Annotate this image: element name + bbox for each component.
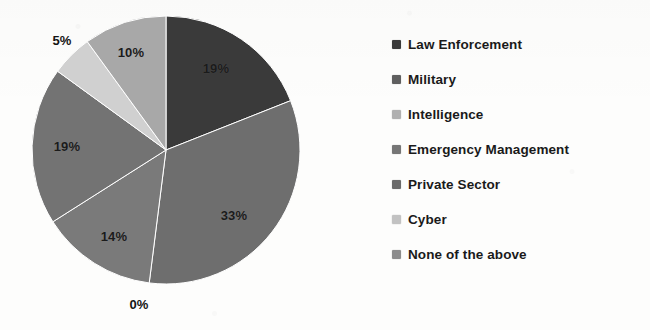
legend-item-label: Law Enforcement — [408, 38, 522, 52]
legend-item[interactable]: Emergency Management — [392, 132, 642, 167]
legend-swatch-icon — [392, 145, 401, 154]
legend-item-label: Cyber — [408, 213, 447, 227]
legend-swatch-icon — [392, 250, 401, 259]
slice-value-label: 5% — [52, 33, 71, 48]
slice-value-label: 19% — [203, 61, 230, 76]
legend-swatch-icon — [392, 40, 401, 49]
legend-swatch-icon — [392, 110, 401, 119]
slice-value-label: 10% — [118, 45, 145, 60]
legend-item[interactable]: Intelligence — [392, 97, 642, 132]
slice-value-label: 14% — [101, 229, 128, 244]
legend-item-label: Military — [408, 73, 456, 87]
legend-item[interactable]: None of the above — [392, 237, 642, 272]
legend-item[interactable]: Cyber — [392, 202, 642, 237]
legend-item[interactable]: Private Sector — [392, 167, 642, 202]
chart-legend: Law EnforcementMilitaryIntelligenceEmerg… — [392, 27, 642, 272]
legend-item-label: Intelligence — [408, 108, 483, 122]
pie-svg — [0, 0, 370, 330]
legend-swatch-icon — [392, 215, 401, 224]
slice-value-label: 19% — [54, 139, 81, 154]
slice-value-label: 0% — [129, 297, 148, 312]
legend-item-label: Emergency Management — [408, 143, 569, 157]
pie-chart-area: 19%33%0%14%19%5%10% — [0, 0, 370, 330]
legend-item[interactable]: Military — [392, 62, 642, 97]
legend-swatch-icon — [392, 75, 401, 84]
legend-swatch-icon — [392, 180, 401, 189]
legend-item[interactable]: Law Enforcement — [392, 27, 642, 62]
legend-item-label: Private Sector — [408, 178, 500, 192]
slice-value-label: 33% — [221, 208, 248, 223]
pie-chart-figure: 19%33%0%14%19%5%10% Law EnforcementMilit… — [0, 0, 650, 330]
legend-item-label: None of the above — [408, 248, 527, 262]
